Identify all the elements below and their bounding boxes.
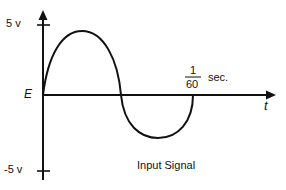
y-axis-arrow-icon (39, 10, 48, 20)
period-denominator: 60 (186, 78, 198, 90)
sine-waveform (43, 31, 193, 138)
diagram-title: Input Signal (137, 159, 195, 171)
y-origin-label: E (24, 87, 32, 101)
y-max-label: 5 v (6, 17, 21, 29)
period-numerator: 1 (190, 64, 196, 76)
period-unit: sec. (208, 71, 228, 83)
y-min-label: -5 v (4, 163, 22, 175)
time-axis-label: t (264, 98, 268, 113)
